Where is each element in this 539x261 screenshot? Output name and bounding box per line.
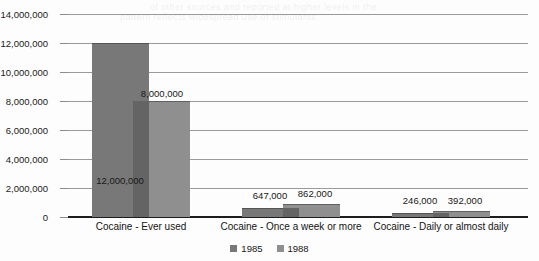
- bar-top-edge: [283, 204, 340, 205]
- value-label-1988-cocaine-daily-or-almost-daily: 392,000: [448, 195, 482, 206]
- bar-chart: of other sources and reported at higher …: [0, 0, 539, 261]
- value-label-1988-cocaine-once-a-week-or-more: 862,000: [298, 188, 332, 199]
- ytick-label-6000000: 6,000,000: [0, 125, 48, 136]
- bar-top-edge: [433, 211, 490, 212]
- value-label-1985-cocaine-once-a-week-or-more: 647,000: [253, 190, 287, 201]
- category-label-cocaine-daily-or-almost-daily: Cocaine - Daily or almost daily: [373, 221, 508, 232]
- ytick-label-8000000: 8,000,000: [0, 96, 48, 107]
- category-label-cocaine-once-a-week-or-more: Cocaine - Once a week or more: [220, 221, 361, 232]
- ytick-label-2000000: 2,000,000: [0, 183, 48, 194]
- value-label-1985-cocaine-daily-or-almost-daily: 246,000: [403, 195, 437, 206]
- legend-item-1985[interactable]: 1985: [230, 243, 262, 254]
- bar-overlap-cocaine-once-a-week-or-more: [283, 208, 299, 217]
- ytick-label-12000000: 12,000,000: [0, 38, 48, 49]
- chart-legend: 1985 1988: [0, 243, 539, 254]
- tickmark-8000000: [60, 101, 68, 102]
- gridline-14000000: 14,000,000: [68, 14, 528, 15]
- bar-overlap-cocaine-ever-used: [133, 101, 149, 217]
- tickmark-12000000: [60, 43, 68, 44]
- legend-swatch-icon-1988: [277, 245, 284, 252]
- ytick-label-0: 0: [0, 212, 48, 223]
- tickmark-10000000: [60, 72, 68, 73]
- tickmark-14000000: [60, 14, 68, 15]
- ytick-label-4000000: 4,000,000: [0, 154, 48, 165]
- bar-overlap-cocaine-daily-or-almost-daily: [433, 213, 449, 217]
- legend-label-1988: 1988: [288, 243, 309, 254]
- legend-swatch-icon-1985: [230, 245, 237, 252]
- tickmark-6000000: [60, 130, 68, 131]
- plot-area: 14,000,000 12,000,000 10,000,000 8,000,0…: [68, 14, 528, 217]
- ytick-label-10000000: 10,000,000: [0, 67, 48, 78]
- bar-top-edge: [92, 43, 149, 44]
- legend-item-1988[interactable]: 1988: [277, 243, 309, 254]
- legend-label-1985: 1985: [241, 243, 262, 254]
- value-label-1988-cocaine-ever-used: 8,000,000: [141, 88, 183, 99]
- tickmark-4000000: [60, 159, 68, 160]
- tickmark-2000000: [60, 188, 68, 189]
- category-label-cocaine-ever-used: Cocaine - Ever used: [96, 221, 187, 232]
- tickmark-0: [60, 217, 68, 218]
- scan-bleed-artifact-1: of other sources and reported at higher …: [150, 2, 377, 12]
- value-label-1985-cocaine-ever-used: 12,000,000: [96, 175, 144, 186]
- ytick-label-14000000: 14,000,000: [0, 9, 48, 20]
